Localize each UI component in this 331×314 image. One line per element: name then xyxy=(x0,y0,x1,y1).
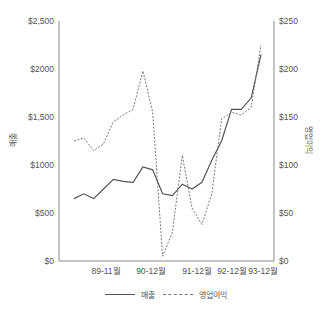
legend-label-revenue: 매출 xyxy=(141,289,155,300)
x-tick-label: 89-11월 xyxy=(91,266,120,276)
left-tick-label: $1000 xyxy=(30,160,54,170)
left-tick-label: $2000 xyxy=(30,64,54,74)
x-tick-label: 90-12월 xyxy=(136,266,166,276)
x-tick-label: 92-12월 xyxy=(217,266,247,276)
legend-item-operating-profit: 영업이익 xyxy=(163,289,227,300)
dual-axis-line-chart: $0$500$1000$1,500$2000$2,500 $0$50$100$1… xyxy=(0,0,331,314)
right-y-axis: $0$50$100$150$200$250 xyxy=(274,16,298,266)
right-tick-label: $200 xyxy=(279,64,298,74)
right-tick-label: $250 xyxy=(279,16,298,26)
left-y-axis: $0$500$1000$1,500$2000$2,500 xyxy=(28,16,59,266)
right-tick-label: $100 xyxy=(279,160,298,170)
left-axis-title: 매출 xyxy=(8,133,18,147)
legend-item-revenue: 매출 xyxy=(105,289,155,300)
chart-legend: 매출 영업이익 xyxy=(0,289,331,300)
series-lines xyxy=(74,45,261,256)
left-tick-label: $500 xyxy=(35,208,54,218)
left-tick-label: $2,500 xyxy=(28,16,54,26)
right-tick-label: $0 xyxy=(279,256,289,266)
right-tick-label: $50 xyxy=(279,208,293,218)
left-tick-label: $1,500 xyxy=(28,112,54,122)
operating-profit-line xyxy=(74,45,261,256)
x-axis: 89-11월90-12월91-12월92-12월93-12월 xyxy=(59,261,278,276)
revenue-line xyxy=(74,55,261,199)
x-tick-label: 91-12월 xyxy=(182,266,212,276)
dashed-line-swatch-icon xyxy=(163,294,193,295)
left-tick-label: $0 xyxy=(45,256,55,266)
right-axis-title: 영업이익 xyxy=(304,126,314,154)
solid-line-swatch-icon xyxy=(105,294,135,295)
x-tick-label: 93-12월 xyxy=(248,266,278,276)
right-tick-label: $150 xyxy=(279,112,298,122)
legend-label-operating-profit: 영업이익 xyxy=(199,289,227,300)
